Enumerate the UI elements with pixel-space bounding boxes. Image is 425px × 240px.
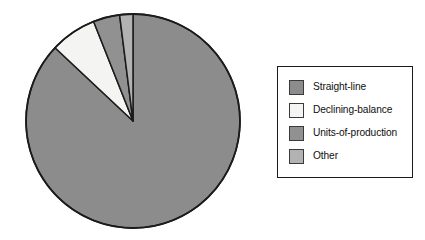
pie-slice-group xyxy=(26,14,240,228)
legend-item: Declining-balance xyxy=(289,99,412,121)
pie-chart-figure: Straight-lineDeclining-balanceUnits-of-p… xyxy=(0,0,425,240)
legend-item-label: Declining-balance xyxy=(313,105,392,115)
legend-item-label: Units-of-production xyxy=(313,128,397,138)
chart-legend: Straight-lineDeclining-balanceUnits-of-p… xyxy=(277,66,413,178)
legend-color-swatch xyxy=(289,103,304,118)
legend-item-label: Other xyxy=(313,151,338,161)
legend-entry-list: Straight-lineDeclining-balanceUnits-of-p… xyxy=(278,67,412,177)
legend-item: Other xyxy=(289,145,412,167)
legend-color-swatch xyxy=(289,80,304,95)
legend-item: Units-of-production xyxy=(289,122,412,144)
legend-item-label: Straight-line xyxy=(313,82,366,92)
legend-color-swatch xyxy=(289,149,304,164)
legend-item: Straight-line xyxy=(289,76,412,98)
legend-color-swatch xyxy=(289,126,304,141)
